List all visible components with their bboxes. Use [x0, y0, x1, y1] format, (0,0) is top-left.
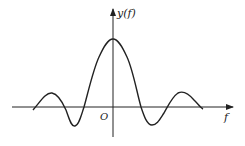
sinc-curve [33, 39, 203, 126]
y-axis-label: y(f) [116, 7, 136, 20]
origin-label: O [100, 111, 108, 122]
plot-canvas: y(f) f O [0, 0, 245, 146]
x-axis-label: f [223, 111, 230, 124]
